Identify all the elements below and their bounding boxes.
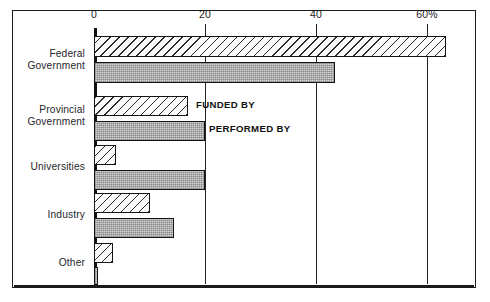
- x-tick-label-0: 0: [91, 8, 97, 20]
- x-tick-label-60: 60%: [416, 8, 438, 20]
- annotation-funded-by: FUNDED BY: [196, 99, 255, 110]
- category-label-industry: Industry: [48, 209, 94, 221]
- bar-funded-universities: [94, 145, 116, 165]
- x-tick-label-20: 20: [199, 8, 211, 20]
- bar-performed-federal-government: [94, 62, 335, 83]
- bar-performed-provincial-government: [94, 121, 205, 141]
- bar-funded-other: [94, 243, 113, 263]
- gridline-60: [427, 32, 428, 284]
- bar-performed-industry: [94, 218, 174, 238]
- bar-performed-universities: [94, 170, 205, 190]
- bar-funded-provincial-government: [94, 96, 188, 116]
- category-label-federal-government: Federal Government: [27, 48, 94, 71]
- category-label-provincial-government: Provincial Government: [27, 104, 94, 127]
- annotation-performed-by: PERFORMED BY: [209, 123, 291, 134]
- chart-container: 0 20 40 60% Federal Government Provincia…: [0, 0, 490, 302]
- bar-funded-industry: [94, 193, 150, 213]
- x-tick-mark-20: [205, 24, 206, 32]
- category-label-universities: Universities: [31, 161, 94, 173]
- x-axis-baseline: [14, 285, 474, 287]
- x-tick-label-40: 40: [310, 8, 322, 20]
- x-tick-mark-40: [316, 24, 317, 32]
- bar-funded-federal-government: [94, 36, 446, 57]
- bar-performed-other: [94, 267, 98, 285]
- category-label-other: Other: [59, 257, 94, 269]
- x-tick-mark-60: [427, 24, 428, 32]
